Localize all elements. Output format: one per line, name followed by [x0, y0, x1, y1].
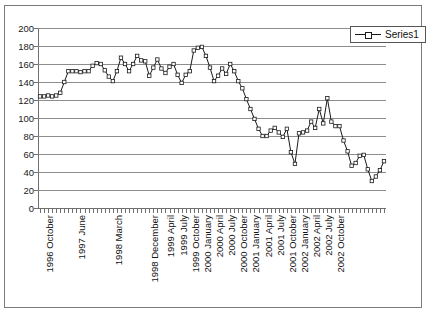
data-point — [237, 79, 240, 82]
data-point — [281, 135, 284, 138]
x-axis-tick — [275, 209, 276, 213]
data-point — [75, 70, 78, 73]
data-point — [139, 59, 142, 62]
x-axis-tick-label: 2000 January — [202, 215, 213, 273]
x-axis-tick — [190, 209, 191, 213]
x-axis-tick — [109, 209, 110, 213]
data-point — [305, 129, 308, 132]
x-axis-tick — [331, 209, 332, 213]
x-axis-tick — [246, 209, 247, 213]
data-point — [71, 70, 74, 73]
data-point — [285, 127, 288, 130]
data-point — [346, 150, 349, 153]
x-axis-tick — [121, 209, 122, 213]
x-axis-tick — [182, 209, 183, 213]
x-axis-tick-label: 1999 July — [178, 215, 189, 256]
legend-line-swatch — [355, 34, 381, 35]
data-point — [265, 134, 268, 137]
x-axis-tick — [72, 209, 73, 213]
x-axis-tick — [97, 209, 98, 213]
data-point — [168, 65, 171, 68]
x-axis-tick — [218, 209, 219, 213]
data-point — [160, 67, 163, 70]
x-axis-tick — [327, 209, 328, 213]
data-point — [196, 46, 199, 49]
data-point — [127, 70, 130, 73]
x-axis-tick — [141, 209, 142, 213]
data-point — [59, 91, 62, 94]
data-point — [123, 62, 126, 65]
x-axis-tick — [303, 209, 304, 213]
x-axis-tick — [198, 209, 199, 213]
data-point — [119, 56, 122, 59]
x-axis-tick — [339, 209, 340, 213]
data-point — [245, 97, 248, 100]
x-axis-tick — [174, 209, 175, 213]
x-axis-tick — [344, 209, 345, 213]
x-axis-tick — [295, 209, 296, 213]
data-point — [233, 70, 236, 73]
data-point — [184, 73, 187, 76]
data-point — [200, 45, 203, 48]
data-point — [382, 160, 385, 163]
data-point — [103, 69, 106, 72]
x-axis-tick-label: 1997 June — [76, 215, 87, 259]
data-point — [220, 67, 223, 70]
chart-legend[interactable]: Series1 — [350, 26, 426, 43]
data-point — [131, 62, 134, 65]
x-axis-tick — [145, 209, 146, 213]
data-point — [257, 127, 260, 130]
data-point — [216, 74, 219, 77]
x-axis-labels: 1996 October1997 June1998 March1998 Dece… — [38, 215, 386, 310]
data-point — [95, 61, 98, 64]
x-axis-tick — [40, 209, 41, 213]
x-axis-tick — [52, 209, 53, 213]
x-axis-tick-label: 2000 April — [214, 215, 225, 257]
data-point — [374, 175, 377, 178]
data-point — [301, 131, 304, 134]
x-axis-tick — [348, 209, 349, 213]
x-axis-tick — [271, 209, 272, 213]
data-point — [342, 139, 345, 142]
data-point — [334, 124, 337, 127]
x-axis-tick — [352, 209, 353, 213]
x-axis-tick — [153, 209, 154, 213]
x-axis-tick — [186, 209, 187, 213]
data-point — [148, 74, 151, 77]
x-axis-tick — [267, 209, 268, 213]
data-point — [87, 70, 90, 73]
x-axis-tick-label: 2001 October — [287, 215, 298, 273]
x-axis-tick-label: 1999 April — [165, 215, 176, 257]
data-point — [135, 54, 138, 57]
data-point — [378, 169, 381, 172]
data-point — [144, 60, 147, 63]
data-point — [269, 129, 272, 132]
x-axis-tick-label: 2001 April — [263, 215, 274, 257]
data-point — [261, 134, 264, 137]
y-axis-ticks — [5, 28, 38, 208]
data-point — [362, 153, 365, 156]
x-axis-tick — [226, 209, 227, 213]
data-point — [192, 49, 195, 52]
x-axis-tick — [93, 209, 94, 213]
data-point — [322, 122, 325, 125]
x-axis-tick — [364, 209, 365, 213]
data-point — [212, 79, 215, 82]
x-axis-tick — [170, 209, 171, 213]
x-axis-tick — [206, 209, 207, 213]
x-axis-tick — [133, 209, 134, 213]
data-point — [50, 95, 53, 98]
data-point — [330, 120, 333, 123]
x-axis-tick — [242, 209, 243, 213]
data-point — [277, 131, 280, 134]
x-axis-tick — [117, 209, 118, 213]
x-axis-tick — [335, 209, 336, 213]
data-point — [204, 54, 207, 57]
x-axis-tick — [178, 209, 179, 213]
x-axis-tick — [89, 209, 90, 213]
x-axis-tick — [165, 209, 166, 213]
data-point — [152, 66, 155, 69]
x-axis-tick — [315, 209, 316, 213]
x-axis-tick-label: 2002 January — [299, 215, 310, 273]
data-point — [188, 70, 191, 73]
